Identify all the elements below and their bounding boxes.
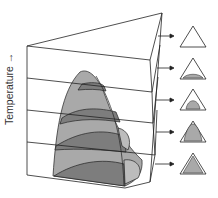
section-arrows (155, 34, 174, 166)
section-4 (180, 121, 206, 142)
section-5 (180, 153, 206, 174)
section-1 (180, 26, 206, 47)
section-3 (180, 89, 206, 110)
phase-volume (53, 71, 142, 186)
ternary-phase-diagram (0, 0, 218, 198)
section-2 (180, 58, 206, 79)
